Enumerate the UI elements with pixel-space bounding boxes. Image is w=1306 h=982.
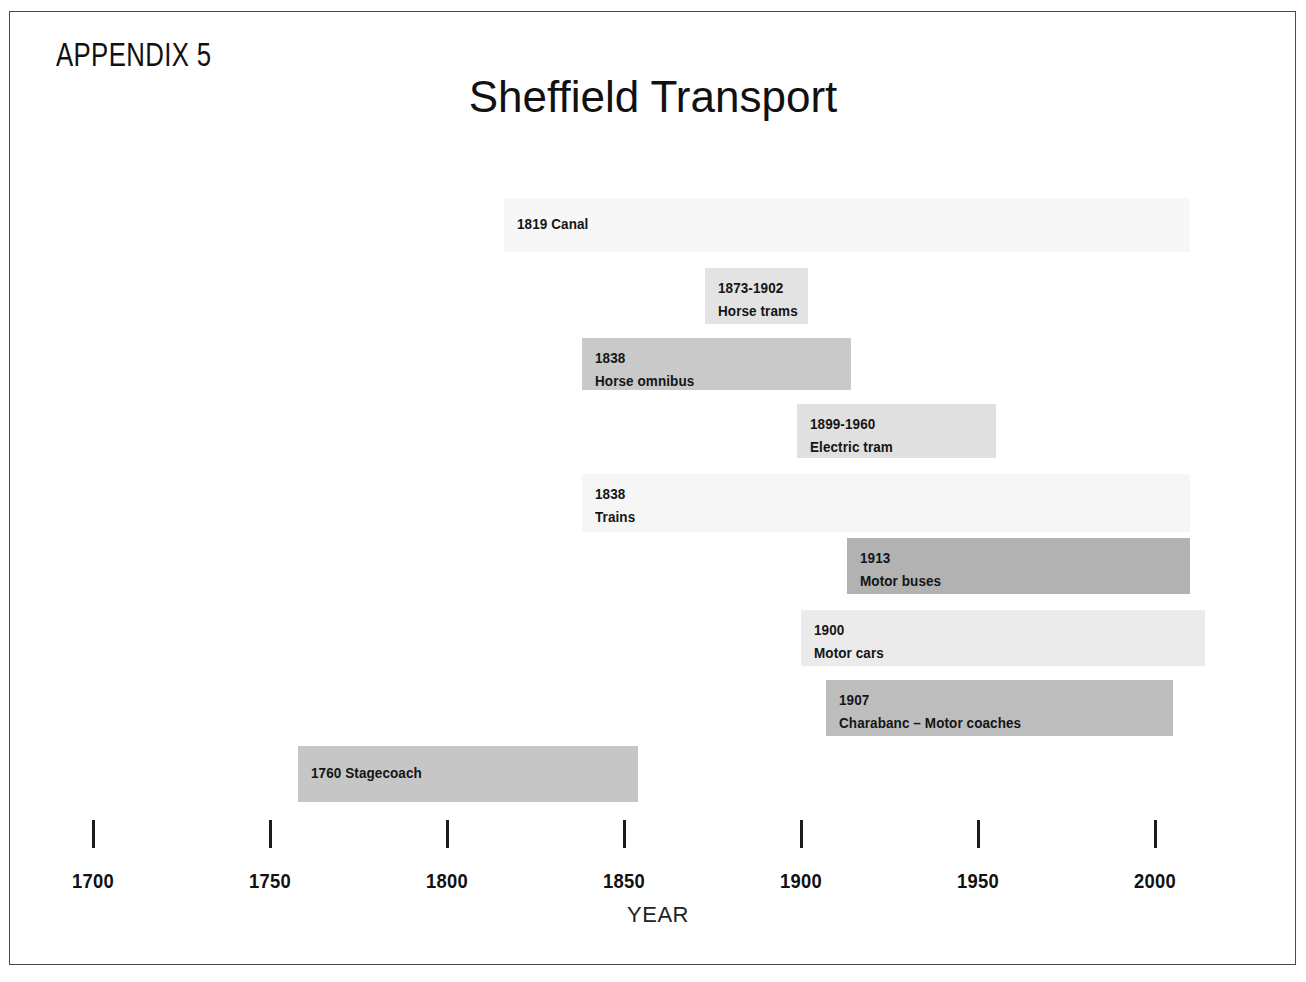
- axis-tick-1900: [800, 820, 803, 848]
- axis-tick-label-1850: 1850: [603, 870, 645, 893]
- axis-tick-label-1750: 1750: [249, 870, 291, 893]
- axis-tick-1950: [977, 820, 980, 848]
- axis-tick-label-2000: 2000: [1134, 870, 1176, 893]
- chart-page: APPENDIX 5 Sheffield Transport 1819 Cana…: [0, 0, 1306, 982]
- axis-tick-2000: [1154, 820, 1157, 848]
- axis-title-year: YEAR: [627, 902, 689, 928]
- axis-tick-label-1800: 1800: [426, 870, 468, 893]
- axis-tick-label-1900: 1900: [780, 870, 822, 893]
- axis-tick-1800: [446, 820, 449, 848]
- year-axis: 1700175018001850190019502000YEAR: [0, 0, 1306, 982]
- axis-tick-label-1950: 1950: [957, 870, 999, 893]
- axis-tick-1750: [269, 820, 272, 848]
- axis-tick-1850: [623, 820, 626, 848]
- axis-tick-1700: [92, 820, 95, 848]
- axis-tick-label-1700: 1700: [72, 870, 114, 893]
